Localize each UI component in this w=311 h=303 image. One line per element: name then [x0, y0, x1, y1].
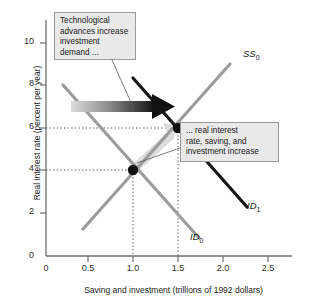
callout-result-line3: investment increase — [186, 147, 274, 158]
callout-tech-line1: Technological — [60, 16, 131, 27]
callout-tech-leader — [112, 60, 133, 107]
demand-shift-arrow — [71, 94, 175, 119]
x-axis-ticks — [88, 256, 268, 262]
curve-label-id0-sub: 0 — [200, 237, 204, 244]
x-tick-label-25: 2.5 — [255, 263, 281, 273]
y-tick-label-4: 6 — [12, 121, 34, 131]
equilibrium-point-initial — [128, 165, 138, 175]
technological-advances-callout: Technological advances increase investme… — [54, 12, 136, 60]
curve-label-ss0: SS0 — [243, 48, 260, 61]
investment-demand-saving-supply-chart: 2 4 6 8 10 0 0 0.5 1.0 1.5 2.0 2.5 Real … — [0, 0, 311, 303]
y-tick-label-8: 10 — [12, 36, 34, 46]
callout-result-line1: ... real interest — [186, 126, 274, 137]
x-tick-label-0: 0 — [33, 263, 59, 273]
callout-tech-line2: advances increase — [60, 27, 131, 38]
callout-result-line2: rate, saving, and — [186, 137, 274, 148]
curve-label-ss0-base: SS — [243, 48, 256, 59]
y-tick-label-zero: 0 — [12, 250, 34, 260]
y-tick-label-2: 4 — [12, 163, 34, 173]
curve-label-id1-sub: 1 — [257, 206, 261, 213]
x-tick-label-10: 1.0 — [120, 263, 146, 273]
callout-tech-line3: investment — [60, 37, 131, 48]
curve-label-id0: ID0 — [190, 231, 203, 244]
callout-tech-line4: demand ... — [60, 48, 131, 59]
curve-label-id1-base: ID — [247, 200, 257, 211]
x-tick-label-05: 0.5 — [75, 263, 101, 273]
curve-label-id1: ID1 — [247, 200, 260, 213]
x-tick-label-15: 1.5 — [165, 263, 191, 273]
y-tick-label-0: 2 — [12, 206, 34, 216]
x-axis-title: Saving and investment (trillions of 1992… — [46, 285, 301, 295]
y-axis-title: Real interest rate (percent per year) — [32, 28, 42, 238]
curve-label-id0-base: ID — [190, 231, 200, 242]
y-tick-label-6: 8 — [12, 78, 34, 88]
curve-label-ss0-sub: 0 — [256, 54, 260, 61]
real-interest-rate-callout: ... real interest rate, saving, and inve… — [180, 122, 279, 162]
x-tick-label-20: 2.0 — [210, 263, 236, 273]
